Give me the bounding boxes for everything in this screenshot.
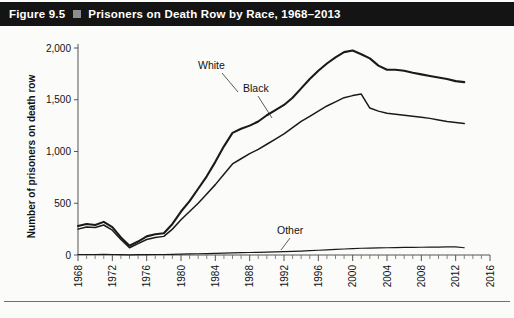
x-tick-label: 1968 xyxy=(73,265,84,288)
x-tick-label: 2004 xyxy=(382,265,393,288)
figure-title-bar: Figure 9.5 Prisoners on Death Row by Rac… xyxy=(0,2,514,26)
figure-title: Prisoners on Death Row by Race, 1968–201… xyxy=(88,8,340,20)
x-tick-label: 1972 xyxy=(107,265,118,288)
x-tick-label: 1976 xyxy=(141,265,152,288)
y-tick-label: 2,000 xyxy=(46,43,71,54)
x-tick-label: 1980 xyxy=(176,265,187,288)
x-tick-label: 1992 xyxy=(279,265,290,288)
x-tick-label: 1988 xyxy=(244,265,255,288)
series-label-white: White xyxy=(198,59,225,71)
series-label-black: Black xyxy=(243,82,269,94)
x-tick-label: 2000 xyxy=(347,265,358,288)
series-label-other: Other xyxy=(277,224,304,236)
series-line-white xyxy=(78,51,464,246)
x-tick-label: 1996 xyxy=(313,265,324,288)
x-tick-label: 2016 xyxy=(485,265,496,288)
line-chart: 05001,0001,5002,000196819721976198019841… xyxy=(0,26,514,294)
x-tick-label: 2012 xyxy=(450,265,461,288)
leader-line-white xyxy=(222,73,238,92)
series-line-other xyxy=(78,247,464,255)
figure-container: Figure 9.5 Prisoners on Death Row by Rac… xyxy=(0,0,514,318)
leader-line-black xyxy=(258,96,272,118)
y-tick-label: 1,000 xyxy=(46,146,71,157)
figure-number: Figure 9.5 xyxy=(9,8,65,20)
y-tick-label: 1,500 xyxy=(46,94,71,105)
square-bullet-icon xyxy=(73,10,81,18)
plot-area: Number of prisoners on death row 05001,0… xyxy=(0,26,514,294)
bottom-divider xyxy=(4,301,510,302)
x-tick-label: 2008 xyxy=(416,265,427,288)
y-tick-label: 500 xyxy=(54,198,71,209)
leader-line-other xyxy=(281,238,290,250)
x-tick-label: 1984 xyxy=(210,265,221,288)
y-tick-label: 0 xyxy=(65,250,71,261)
